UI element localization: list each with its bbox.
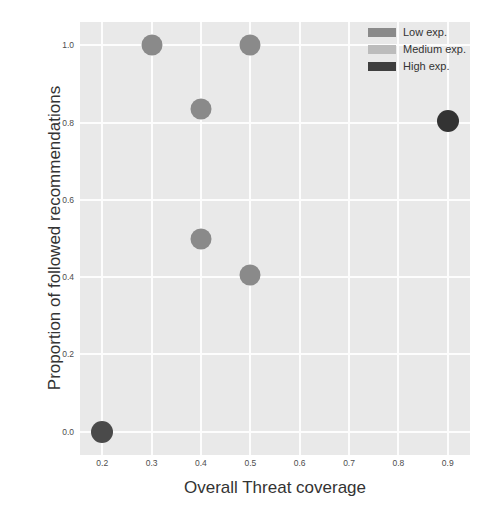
x-axis-tick-labels: 0.20.30.40.50.60.70.80.9	[80, 458, 470, 474]
gridline-vertical	[397, 22, 399, 455]
plot-panel	[80, 22, 470, 455]
x-tick-label: 0.9	[442, 458, 454, 468]
legend-swatch-icon	[368, 45, 396, 54]
gridline-vertical	[348, 22, 350, 455]
legend-entry: Low exp.	[368, 27, 466, 38]
data-point	[141, 35, 162, 56]
x-tick-label: 0.7	[343, 458, 355, 468]
data-point	[190, 228, 211, 249]
data-point	[437, 110, 459, 132]
x-tick-label: 0.5	[244, 458, 256, 468]
x-tick-label: 0.3	[146, 458, 158, 468]
gridline-vertical	[447, 22, 449, 455]
legend-swatch-icon	[368, 28, 396, 37]
gridline-vertical	[299, 22, 301, 455]
legend-label: Low exp.	[403, 27, 447, 38]
x-tick-label: 0.2	[96, 458, 108, 468]
data-point	[91, 421, 113, 443]
x-tick-label: 0.6	[294, 458, 306, 468]
x-tick-label: 0.4	[195, 458, 207, 468]
gridline-vertical	[151, 22, 153, 455]
legend-entry: Medium exp.	[368, 44, 466, 55]
gridline-vertical	[249, 22, 251, 455]
data-point	[190, 98, 211, 119]
legend-label: Medium exp.	[403, 44, 466, 55]
data-point	[240, 35, 261, 56]
x-axis-title: Overall Threat coverage	[80, 478, 470, 498]
gridline-horizontal	[80, 353, 470, 355]
gridline-horizontal	[80, 276, 470, 278]
legend-label: High exp.	[403, 61, 449, 72]
data-point	[240, 265, 261, 286]
legend-swatch-icon	[368, 62, 396, 71]
gridline-horizontal	[80, 122, 470, 124]
y-axis-title: Proportion of followed recommendations	[45, 28, 65, 448]
x-tick-label: 0.8	[392, 458, 404, 468]
gridline-horizontal	[80, 199, 470, 201]
chart-legend: Low exp.Medium exp.High exp.	[368, 27, 466, 72]
gridline-vertical	[101, 22, 103, 455]
gridline-horizontal	[80, 431, 470, 433]
scatter-plot-figure: 0.00.20.40.60.81.0 0.20.30.40.50.60.70.8…	[0, 0, 499, 523]
legend-entry: High exp.	[368, 61, 466, 72]
